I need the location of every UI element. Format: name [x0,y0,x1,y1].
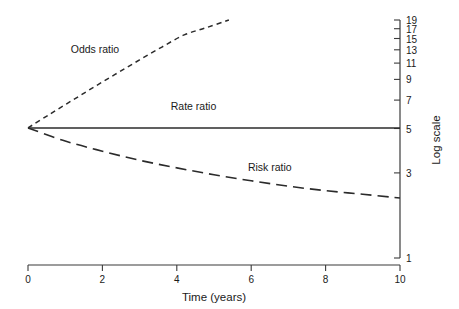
y-tick-label-3: 3 [406,168,412,179]
x-tick-label-0: 0 [25,274,31,285]
series-label-risk-ratio: Risk ratio [248,161,292,173]
y-axis-ticks [394,20,400,258]
chart-figure: 0 2 4 6 8 10 Time (years) [0,0,459,309]
y-axis: 19 17 15 13 11 9 7 5 3 1 Log scale [394,15,442,264]
y-tick-label-9: 9 [406,74,412,85]
y-axis-title: Log scale [430,115,442,164]
y-tick-label-11: 11 [406,58,417,69]
y-tick-label-7: 7 [406,95,412,106]
x-tick-label-2: 2 [100,274,106,285]
x-tick-label-4: 4 [174,274,180,285]
series-risk-ratio-line [28,128,400,198]
y-tick-label-15: 15 [406,34,418,45]
x-axis: 0 2 4 6 8 10 Time (years) [25,265,406,303]
series-labels: Odds ratio Rate ratio Risk ratio [71,43,292,172]
y-tick-label-5: 5 [406,124,412,135]
x-axis-title: Time (years) [182,291,246,303]
y-axis-tick-labels: 19 17 15 13 11 9 7 5 3 1 [406,15,418,264]
y-tick-label-13: 13 [406,45,418,56]
x-tick-label-6: 6 [248,274,254,285]
x-tick-label-8: 8 [323,274,329,285]
series-label-odds-ratio: Odds ratio [71,43,120,55]
y-tick-label-1: 1 [406,253,412,264]
x-tick-label-10: 10 [394,274,406,285]
x-axis-tick-labels: 0 2 4 6 8 10 [25,274,406,285]
chart-plot-area: 0 2 4 6 8 10 Time (years) [0,0,459,309]
series-label-rate-ratio: Rate ratio [171,100,217,112]
x-axis-ticks [28,265,400,271]
